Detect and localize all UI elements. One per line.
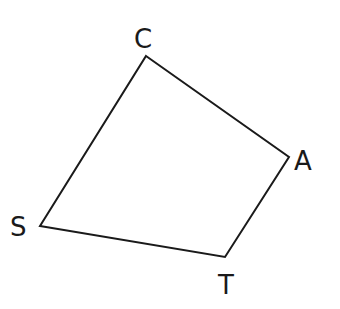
vertex-label-t: T bbox=[217, 270, 234, 300]
quadrilateral-csta bbox=[40, 56, 289, 257]
quadrilateral-diagram: C A T S bbox=[0, 0, 340, 309]
vertex-label-c: C bbox=[134, 24, 152, 54]
vertex-label-s: S bbox=[10, 212, 27, 242]
vertex-label-a: A bbox=[294, 146, 312, 176]
